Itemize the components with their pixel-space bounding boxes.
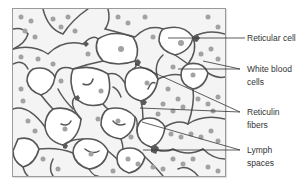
label-white-blood-cells-line2: cells <box>247 77 292 87</box>
label-reticulin-fibers-line2: fibers <box>247 120 280 130</box>
label-lymph-spaces: Lymph spaces <box>247 145 274 168</box>
label-reticular-cell-text: Reticular cell <box>247 33 296 43</box>
label-reticulin-fibers-line1: Reticulin <box>247 107 280 117</box>
tissue-illustration <box>12 8 226 177</box>
label-reticular-cell: Reticular cell <box>247 33 296 43</box>
label-white-blood-cells-line1: White blood <box>247 64 292 74</box>
label-lymph-spaces-line2: spaces <box>247 158 274 168</box>
label-lymph-spaces-line1: Lymph <box>247 145 274 155</box>
label-white-blood-cells: White blood cells <box>247 64 292 87</box>
label-reticulin-fibers: Reticulin fibers <box>247 107 280 130</box>
reticular-tissue-drawing <box>13 9 225 176</box>
